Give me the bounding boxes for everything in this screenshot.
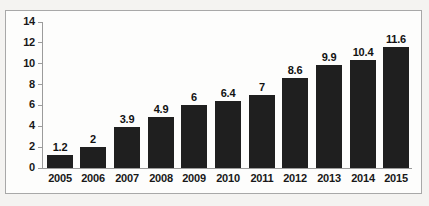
y-tick-label: 14 <box>23 15 35 28</box>
bar-rect[interactable] <box>215 101 241 168</box>
chart-page: 02468101214 1.223.94.966.478.69.910.411.… <box>0 0 429 206</box>
bar-rect[interactable] <box>249 95 275 168</box>
bar-item[interactable]: 8.6 <box>282 22 308 168</box>
y-tick-label: 10 <box>23 57 35 70</box>
bar-value-label: 2 <box>73 133 113 145</box>
y-tick-mark <box>38 105 42 106</box>
bar-item[interactable]: 10.4 <box>350 22 376 168</box>
bar-rect[interactable] <box>80 147 106 168</box>
bar-value-label: 4.9 <box>141 103 181 115</box>
y-tick-mark <box>38 126 42 127</box>
bar-rect[interactable] <box>316 65 342 168</box>
y-tick-label: 2 <box>29 140 35 153</box>
x-axis-labels: 2005200620072008200920102011201220132014… <box>43 171 413 189</box>
bar-rect[interactable] <box>282 78 308 168</box>
y-tick-mark <box>38 22 42 23</box>
chart-frame: 02468101214 1.223.94.966.478.69.910.411.… <box>5 10 422 194</box>
y-tick-label: 12 <box>23 36 35 49</box>
bar-value-label: 11.6 <box>376 33 416 45</box>
y-tick-mark <box>38 168 42 169</box>
bar-item[interactable]: 9.9 <box>316 22 342 168</box>
bar-value-label: 10.4 <box>343 46 383 58</box>
bar-series: 1.223.94.966.478.69.910.411.6 <box>43 22 412 168</box>
bar-value-label: 7 <box>242 81 282 93</box>
y-tick-label: 0 <box>29 161 35 174</box>
y-tick-label: 4 <box>29 119 35 132</box>
bar-item[interactable]: 6.4 <box>215 22 241 168</box>
bar-value-label: 8.6 <box>275 64 315 76</box>
bar-item[interactable]: 4.9 <box>148 22 174 168</box>
bar-item[interactable]: 6 <box>181 22 207 168</box>
x-axis-line <box>42 168 412 169</box>
y-tick-label: 6 <box>29 98 35 111</box>
bar-item[interactable]: 11.6 <box>383 22 409 168</box>
y-tick-mark <box>38 84 42 85</box>
plot-area: 02468101214 1.223.94.966.478.69.910.411.… <box>42 22 412 168</box>
bar-rect[interactable] <box>350 60 376 168</box>
bar-item[interactable]: 3.9 <box>114 22 140 168</box>
bar-rect[interactable] <box>383 47 409 168</box>
bar-item[interactable]: 1.2 <box>47 22 73 168</box>
bar-rect[interactable] <box>181 105 207 168</box>
bar-item[interactable]: 7 <box>249 22 275 168</box>
y-tick-mark <box>38 63 42 64</box>
bar-rect[interactable] <box>114 127 140 168</box>
y-tick-mark <box>38 42 42 43</box>
x-axis-label: 2015 <box>376 171 416 185</box>
y-tick-label: 8 <box>29 78 35 91</box>
bar-rect[interactable] <box>148 117 174 168</box>
bar-item[interactable]: 2 <box>80 22 106 168</box>
bar-rect[interactable] <box>47 155 73 168</box>
